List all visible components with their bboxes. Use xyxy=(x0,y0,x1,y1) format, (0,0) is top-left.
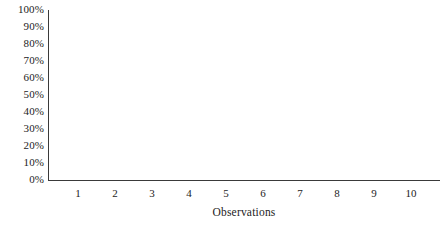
y-axis-tick-label: 10% xyxy=(0,157,44,168)
y-axis-tick-label: 0% xyxy=(0,174,44,185)
y-axis-tick-label: 20% xyxy=(0,140,44,151)
y-axis-line xyxy=(48,10,49,181)
y-axis-tick-label: 60% xyxy=(0,72,44,83)
x-axis-tick-label: 7 xyxy=(288,187,312,199)
run-chart: 100%90%80%70%60%50%40%30%20%10%0% 123456… xyxy=(0,0,445,230)
x-axis-line xyxy=(48,180,440,181)
x-axis-tick-label: 10 xyxy=(399,187,423,199)
x-axis-tick-label: 8 xyxy=(325,187,349,199)
x-axis-tick-label: 6 xyxy=(251,187,275,199)
x-axis-tick-label: 1 xyxy=(66,187,90,199)
x-axis-tick-label: 5 xyxy=(214,187,238,199)
x-axis-tick-label: 2 xyxy=(103,187,127,199)
x-axis-title: Observations xyxy=(48,205,440,219)
y-axis-tick-label: 80% xyxy=(0,38,44,49)
y-axis-tick-label: 50% xyxy=(0,89,44,100)
y-axis-tick-label: 100% xyxy=(0,4,44,15)
y-axis-tick-label: 90% xyxy=(0,21,44,32)
y-axis-tick-label: 30% xyxy=(0,123,44,134)
plot-area xyxy=(48,10,440,180)
x-axis-tick-label: 9 xyxy=(362,187,386,199)
y-axis-tick-label: 70% xyxy=(0,55,44,66)
x-axis-tick-label: 4 xyxy=(177,187,201,199)
y-axis-tick-label: 40% xyxy=(0,106,44,117)
x-axis-tick-label: 3 xyxy=(140,187,164,199)
